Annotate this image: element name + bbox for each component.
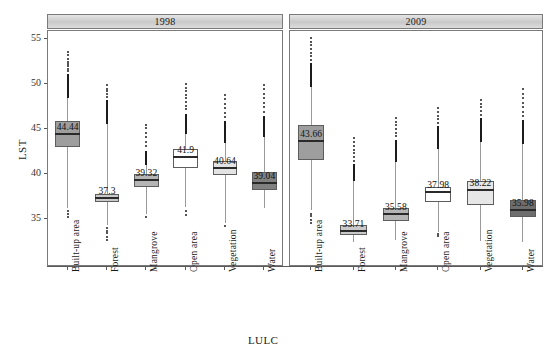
outlier-point [480,103,482,105]
median-value-label: 38.22 [467,178,493,188]
x-tick-mark [67,267,68,270]
outlier-point [480,99,482,101]
outlier-point [106,232,108,234]
outlier-density-band [224,121,226,143]
outlier-point [263,111,265,113]
outlier-point [353,137,355,139]
median-line [467,189,493,191]
outlier-point [353,149,355,151]
x-tick-label-built-up-area: Built-up area [314,220,324,272]
x-tick-mark [145,267,146,270]
median-line [383,213,409,215]
outlier-point [263,84,265,86]
outlier-point [67,54,69,56]
outlier-point [145,136,147,138]
outlier-point [310,222,312,224]
x-axis-label: LULC [248,334,278,346]
outlier-point [522,111,524,113]
outlier-point [522,106,524,108]
outlier-point [310,52,312,54]
outlier-point [224,116,226,118]
median-line [213,167,237,169]
outlier-point [67,70,69,72]
outlier-density-band [522,120,524,144]
median-value-label: 33.71 [340,219,366,229]
x-tick-label-water: Water [526,249,536,272]
outlier-point [437,118,439,120]
outlier-point [224,225,226,227]
outlier-point [185,101,187,103]
median-line [252,182,276,184]
median-line [340,230,366,232]
outlier-point [310,219,312,221]
outlier-point [522,88,524,90]
outlier-point [185,108,187,110]
outlier-point [145,127,147,129]
outlier-point [310,59,312,61]
outlier-point [145,141,147,143]
x-tick-label-water: Water [267,249,277,272]
outlier-point [310,41,312,43]
outlier-density-band [106,100,108,124]
x-tick-mark [106,267,107,270]
outlier-point [185,105,187,107]
x-tick-mark [353,267,354,270]
outlier-point [67,58,69,60]
median-line [298,140,324,142]
outlier-point [480,114,482,116]
outlier-point [106,96,108,98]
outlier-point [437,122,439,124]
median-value-label: 39.04 [252,171,276,181]
outlier-density-band [185,114,187,135]
outlier-point [263,88,265,90]
outlier-point [185,210,187,212]
x-tick-mark [263,267,264,270]
panel-body-2009: 43.6633.7135.5837.9838.2235.98 [289,30,543,266]
outlier-point [67,63,69,65]
median-value-label: 39.32 [134,168,158,178]
outlier-point [263,93,265,95]
outlier-point [353,145,355,147]
outlier-point [145,216,147,218]
x-tick-mark [224,267,225,270]
panel-body-1998: 44.4437.339.3241.940.6439.04 [47,30,283,266]
outlier-point [522,102,524,104]
outlier-point [224,94,226,96]
boxplot-figure: LST LULC 3540455055 199844.4437.339.3241… [0,0,548,359]
outlier-point [395,121,397,123]
median-value-label: 37.3 [95,186,119,196]
outlier-point [437,111,439,113]
outlier-density-band [395,140,397,162]
median-value-label: 44.44 [55,122,79,132]
x-tick-mark [310,267,311,270]
x-tick-mark [395,267,396,270]
outlier-point [480,106,482,108]
outlier-point [310,215,312,217]
x-tick-label-forest: Forest [357,247,367,272]
outlier-point [353,156,355,158]
outlier-density-band [480,118,482,142]
median-line [510,209,536,211]
outlier-point [106,230,108,232]
outlier-point [145,132,147,134]
panel-strip-2009: 2009 [289,14,543,29]
outlier-point [437,115,439,117]
outlier-point [106,227,108,229]
outlier-point [185,94,187,96]
x-tick-label-forest: Forest [110,247,120,272]
outlier-point [185,83,187,85]
outlier-point [353,160,355,162]
x-axis-line [47,266,543,267]
outlier-point [395,132,397,134]
outlier-point [437,107,439,109]
median-value-label: 35.98 [510,198,536,208]
median-value-label: 41.9 [173,145,197,155]
outlier-point [395,117,397,119]
y-axis-label: LST [16,139,28,160]
outlier-density-band [145,151,147,165]
x-tick-label-built-up-area: Built-up area [71,220,81,272]
outlier-point [67,61,69,63]
y-tick-label: 55 [15,32,41,43]
outlier-density-band [263,116,265,136]
median-line [134,179,158,181]
